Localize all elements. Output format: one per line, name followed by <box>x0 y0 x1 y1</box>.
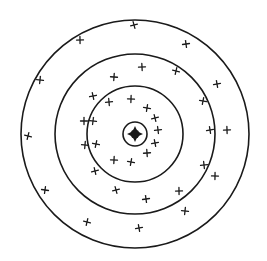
target-diagram <box>0 0 267 261</box>
cross-mark <box>112 186 121 195</box>
cross-mark <box>143 104 151 112</box>
cross-mark <box>182 40 190 48</box>
cross-mark <box>135 224 143 232</box>
cross-mark <box>181 207 189 215</box>
cross-mark <box>105 98 113 106</box>
cross-mark <box>24 132 32 140</box>
cross-mark <box>143 149 150 156</box>
cross-mark <box>154 126 162 134</box>
cross-mark <box>81 118 88 125</box>
cross-mark <box>92 140 100 148</box>
cross-mark <box>91 167 99 175</box>
cross-mark <box>127 158 135 166</box>
cross-mark <box>110 156 117 163</box>
cross-mark <box>89 92 97 100</box>
cross-mark <box>223 126 230 133</box>
target-canvas <box>0 0 267 261</box>
cross-mark <box>175 187 182 194</box>
cross-mark <box>76 36 83 43</box>
cross-mark <box>211 172 218 179</box>
cross-mark <box>151 114 159 122</box>
bullseye-center <box>131 130 140 139</box>
cross-mark <box>151 139 159 147</box>
cross-mark <box>142 195 150 203</box>
cross-mark <box>41 186 49 194</box>
cross-mark <box>36 76 44 84</box>
cross-mark <box>138 63 145 70</box>
cross-mark <box>127 95 134 102</box>
cross-mark <box>110 73 117 80</box>
cross-mark <box>213 80 221 88</box>
cross-mark <box>206 126 214 134</box>
cross-mark <box>83 218 91 226</box>
cross-mark <box>130 21 139 30</box>
